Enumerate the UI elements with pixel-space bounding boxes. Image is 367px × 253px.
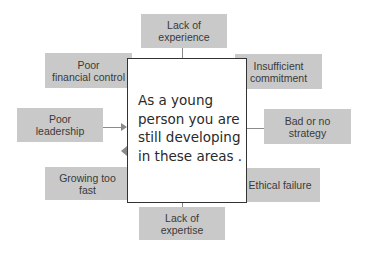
node-growing-too-fast: Growing too fast bbox=[45, 167, 130, 200]
node-label-line2: expertise bbox=[161, 224, 204, 236]
node-lack-of-expertise: Lack of expertise bbox=[139, 207, 225, 240]
node-label-line1: Ethical failure bbox=[248, 179, 311, 191]
connector-mid-left bbox=[103, 127, 123, 128]
node-label-line1: Growing too bbox=[59, 172, 116, 184]
node-label-line1: Bad or no bbox=[285, 115, 331, 127]
node-poor-leadership: Poor leadership bbox=[17, 108, 103, 142]
node-lack-of-experience: Lack of experience bbox=[141, 14, 227, 48]
node-insufficient-commitment: Insufficient commitment bbox=[235, 54, 322, 89]
node-label-line1: Poor bbox=[36, 113, 84, 125]
node-label-line1: Poor bbox=[52, 59, 125, 71]
node-label-line1: Lack of bbox=[161, 212, 204, 224]
node-label-line2: financial control bbox=[52, 71, 125, 83]
node-label-line2: experience bbox=[158, 31, 209, 43]
node-label-line1: Lack of bbox=[158, 19, 209, 31]
node-ethical-failure: Ethical failure bbox=[240, 168, 320, 202]
connector-top bbox=[182, 48, 183, 58]
node-bad-or-no-strategy: Bad or no strategy bbox=[264, 109, 351, 144]
node-label-line2: commitment bbox=[250, 72, 307, 84]
node-poor-financial-control: Poor financial control bbox=[45, 53, 132, 88]
node-label-line2: leadership bbox=[36, 125, 84, 137]
connector-mid-right bbox=[246, 128, 264, 129]
node-label-line2: strategy bbox=[285, 127, 331, 139]
node-label-line1: Insufficient bbox=[250, 60, 307, 72]
node-label-line2: fast bbox=[59, 184, 116, 196]
center-callout: As a young person you are still developi… bbox=[127, 58, 247, 203]
